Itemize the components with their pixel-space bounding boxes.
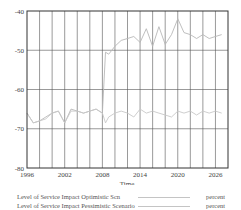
legend-unit: percent — [206, 193, 225, 200]
series-optimistic-line — [27, 19, 222, 123]
legend-swatch-line — [138, 197, 190, 198]
line-chart: -40-50-60-70-80 199620022008201420202026… — [0, 0, 241, 185]
x-tick-label: 2020 — [171, 171, 186, 179]
x-axis-label: Time — [120, 180, 135, 185]
x-tick-label: 2002 — [58, 171, 73, 179]
x-axis-ticks: 199620022008201420202026 — [20, 171, 223, 179]
x-tick-label: 2014 — [133, 171, 148, 179]
legend-item-pessimistic: Level of Service Impact Pessimistic Scen… — [0, 202, 241, 210]
x-tick-label: 2008 — [95, 171, 110, 179]
y-tick-label: -60 — [15, 86, 25, 94]
x-tick-label: 1996 — [20, 171, 35, 179]
y-axis-ticks: -40-50-60-70-80 — [15, 8, 25, 173]
legend-unit: percent — [206, 202, 225, 209]
legend-item-optimistic: Level of Service Impact Optimistic Scn p… — [0, 193, 241, 202]
legend-label: Level of Service Impact Optimistic Scn — [17, 193, 120, 200]
legend-label: Level of Service Impact Pessimistic Scen… — [17, 202, 135, 209]
y-tick-label: -70 — [15, 125, 25, 133]
y-tick-label: -40 — [15, 8, 25, 16]
legend-swatch-line — [138, 206, 190, 207]
chart-series — [27, 19, 222, 123]
series-pessimistic-line — [27, 109, 222, 123]
x-tick-label: 2026 — [208, 171, 223, 179]
y-tick-label: -50 — [15, 47, 25, 55]
chart-grid — [27, 11, 228, 168]
